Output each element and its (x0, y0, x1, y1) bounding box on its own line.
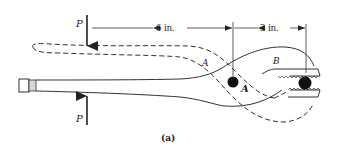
force-label-bottom: P (75, 113, 83, 124)
force-label-top: P (75, 18, 83, 29)
pivot-pin-a (228, 77, 239, 88)
member-b-label: B (272, 56, 280, 66)
dimension-label-6in: 6 in. (156, 22, 175, 33)
handle-thread (29, 80, 36, 91)
dashed-handle-member-a (33, 44, 313, 122)
pivot-label: A (240, 83, 249, 94)
pliers-diagram: P P 6 in. 3 in. A B A (a) (0, 0, 340, 149)
figure-caption: (a) (161, 133, 175, 143)
handle-knob (19, 79, 29, 92)
member-a-label: A (201, 58, 209, 68)
dimension-label-3in: 3 in. (260, 22, 279, 33)
gripped-ball (299, 77, 312, 90)
